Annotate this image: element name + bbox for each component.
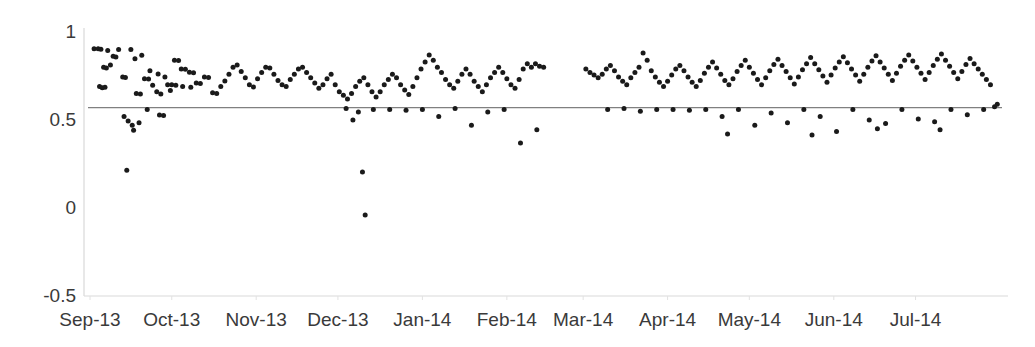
data-point bbox=[468, 72, 473, 77]
data-point bbox=[214, 91, 219, 96]
data-point bbox=[841, 54, 846, 59]
data-point bbox=[677, 63, 682, 68]
data-point bbox=[105, 48, 110, 53]
data-point bbox=[882, 66, 887, 71]
data-point bbox=[469, 123, 474, 128]
data-point bbox=[180, 84, 185, 89]
data-point bbox=[665, 79, 670, 84]
data-point bbox=[176, 58, 181, 63]
data-point bbox=[875, 126, 880, 131]
data-point bbox=[861, 72, 866, 77]
data-point bbox=[525, 61, 530, 66]
data-point bbox=[188, 85, 193, 90]
data-point bbox=[730, 76, 735, 81]
data-point bbox=[829, 73, 834, 78]
data-point bbox=[158, 91, 163, 96]
data-point bbox=[596, 75, 601, 80]
data-point bbox=[981, 107, 986, 112]
data-point bbox=[812, 61, 817, 66]
data-point bbox=[390, 72, 395, 77]
data-point bbox=[743, 58, 748, 63]
data-point bbox=[235, 63, 240, 68]
data-point bbox=[955, 76, 960, 81]
data-point bbox=[541, 65, 546, 70]
data-point bbox=[800, 67, 805, 72]
data-point bbox=[126, 118, 131, 123]
data-point bbox=[443, 77, 448, 82]
data-point bbox=[939, 52, 944, 57]
data-point bbox=[353, 84, 358, 89]
data-point bbox=[641, 51, 646, 56]
data-point bbox=[226, 72, 231, 77]
data-point bbox=[824, 80, 829, 85]
data-point bbox=[661, 84, 666, 89]
data-point bbox=[673, 66, 678, 71]
data-point bbox=[374, 95, 379, 100]
data-point bbox=[906, 52, 911, 57]
data-point bbox=[771, 62, 776, 67]
data-point bbox=[948, 107, 953, 112]
data-point bbox=[147, 68, 152, 73]
data-point bbox=[718, 72, 723, 77]
data-point bbox=[649, 68, 654, 73]
data-point bbox=[206, 75, 211, 80]
data-point bbox=[833, 66, 838, 71]
plot-canvas bbox=[0, 0, 1035, 347]
data-point bbox=[423, 59, 428, 64]
data-point bbox=[780, 63, 785, 68]
data-point bbox=[138, 91, 143, 96]
data-point bbox=[243, 75, 248, 80]
data-point bbox=[300, 65, 305, 70]
data-point bbox=[504, 76, 509, 81]
data-point bbox=[369, 89, 374, 94]
data-point bbox=[534, 127, 539, 132]
data-point bbox=[624, 82, 629, 87]
data-point bbox=[104, 65, 109, 70]
data-point bbox=[513, 86, 518, 91]
data-point bbox=[239, 69, 244, 74]
data-point bbox=[476, 84, 481, 89]
data-point bbox=[654, 107, 659, 112]
data-point bbox=[431, 58, 436, 63]
data-point bbox=[736, 107, 741, 112]
data-point bbox=[775, 57, 780, 62]
data-point bbox=[492, 70, 497, 75]
data-point bbox=[485, 110, 490, 115]
data-point bbox=[402, 88, 407, 93]
data-point bbox=[918, 71, 923, 76]
data-point bbox=[943, 58, 948, 63]
data-point bbox=[455, 79, 460, 84]
data-point bbox=[435, 65, 440, 70]
data-point bbox=[902, 58, 907, 63]
data-point bbox=[869, 59, 874, 64]
data-point bbox=[714, 66, 719, 71]
data-point bbox=[198, 81, 203, 86]
data-point bbox=[792, 81, 797, 86]
data-point bbox=[320, 82, 325, 87]
data-point bbox=[963, 62, 968, 67]
data-point bbox=[959, 69, 964, 74]
data-point bbox=[251, 84, 256, 89]
data-point bbox=[890, 78, 895, 83]
data-point bbox=[883, 121, 888, 126]
data-point bbox=[751, 71, 756, 76]
data-point bbox=[600, 72, 605, 77]
data-point bbox=[337, 89, 342, 94]
data-point bbox=[122, 114, 127, 119]
data-point bbox=[436, 114, 441, 119]
data-point bbox=[849, 66, 854, 71]
data-point bbox=[439, 70, 444, 75]
data-point bbox=[898, 64, 903, 69]
data-point bbox=[130, 123, 135, 128]
data-point bbox=[616, 74, 621, 79]
data-point bbox=[785, 120, 790, 125]
data-point bbox=[671, 107, 676, 112]
data-point bbox=[681, 68, 686, 73]
data-point bbox=[406, 92, 411, 97]
data-point bbox=[612, 68, 617, 73]
data-point bbox=[932, 119, 937, 124]
data-point bbox=[927, 70, 932, 75]
data-point bbox=[484, 82, 489, 87]
data-point bbox=[865, 65, 870, 70]
data-point bbox=[414, 75, 419, 80]
